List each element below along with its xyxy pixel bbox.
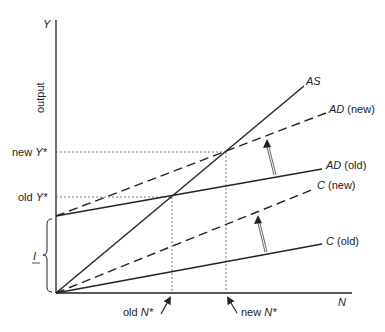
new-y-star-label: new Y*: [12, 146, 48, 158]
investment-label: I: [33, 250, 36, 262]
as-label: AS: [305, 75, 321, 87]
old-n-star-label: old N*: [123, 306, 154, 318]
c-old-label: C (old): [326, 235, 359, 247]
ad-old-label: AD (old): [325, 159, 366, 171]
ad-old-line: [56, 169, 322, 216]
c-shift-arrow: [254, 215, 266, 252]
ad-new-line: [56, 113, 326, 216]
as-line: [56, 86, 304, 293]
new-n-star-label: new N*: [241, 306, 277, 318]
investment-brace: [43, 219, 52, 292]
ad-new-label: AD (new): [328, 103, 375, 115]
old-n-star-pointer: [161, 298, 170, 314]
c-new-label: C (new): [317, 179, 356, 191]
y-axis-label: output: [34, 82, 46, 113]
new-n-star-pointer: [228, 298, 237, 313]
y-axis-symbol: Y: [43, 18, 51, 30]
c-old-line: [56, 244, 322, 293]
ad-shift-arrow: [263, 139, 275, 175]
old-y-star-label: old Y*: [18, 191, 48, 203]
diagram-canvas: Y output N AS AD (new) AD (old) C (new) …: [0, 0, 385, 332]
x-axis-symbol: N: [338, 296, 346, 308]
c-new-line: [56, 189, 314, 293]
